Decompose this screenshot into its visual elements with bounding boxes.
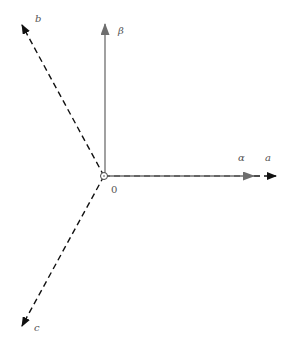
beta-label: β [118, 25, 124, 36]
c-axis [22, 176, 104, 326]
b-axis [22, 25, 104, 176]
origin-label: 0 [111, 184, 117, 195]
c-label: c [34, 322, 40, 333]
abc-alpha-beta-diagram: b β α a 0 c [0, 0, 290, 346]
axes-drawing [0, 0, 290, 346]
b-label: b [35, 13, 41, 24]
a-label: a [265, 152, 271, 163]
alpha-label: α [238, 152, 245, 163]
